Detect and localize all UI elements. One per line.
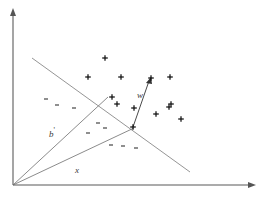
positive-marker [85, 74, 91, 80]
figure-canvas: w b' x [0, 0, 264, 200]
negative-marker-group [44, 99, 138, 148]
positive-marker [153, 111, 159, 117]
ray-x-label: x [75, 166, 79, 175]
scatter-plot-svg [0, 0, 264, 200]
x-axis-arrowhead [248, 182, 256, 188]
positive-marker [109, 94, 115, 100]
vector-w-group [133, 77, 152, 127]
positive-marker-group [85, 55, 184, 130]
vector-w-label: w [137, 91, 143, 100]
positive-marker [167, 74, 173, 80]
axes-group [10, 8, 256, 188]
positive-marker [102, 55, 108, 61]
vector-w-shaft [133, 81, 149, 127]
ray-b-prime-line [13, 97, 108, 185]
b-prime-mark: ' [54, 126, 55, 135]
ray-b-prime-label: b' [49, 127, 55, 139]
y-axis-arrowhead [10, 8, 16, 16]
positive-marker [131, 105, 137, 111]
positive-marker [178, 116, 184, 122]
positive-marker [114, 101, 120, 107]
decision-boundary-line [32, 58, 190, 172]
ray-x-line [13, 128, 134, 185]
positive-marker [118, 74, 124, 80]
